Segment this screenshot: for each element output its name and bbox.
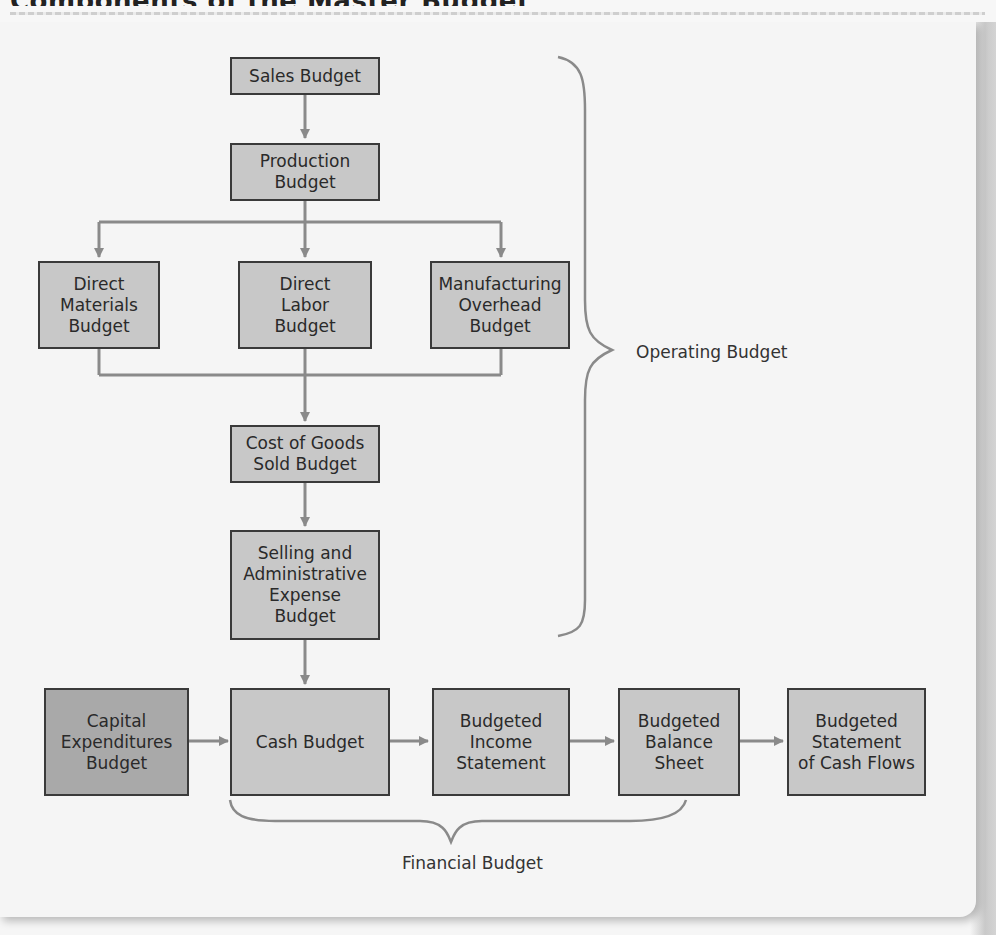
box-selling-admin-expense-budget: Selling and Administrative Expense Budge… <box>230 530 380 640</box>
box-budgeted-income-statement: Budgeted Income Statement <box>432 688 570 796</box>
box-direct-labor-budget: Direct Labor Budget <box>238 261 372 349</box>
box-cost-of-goods-sold-budget: Cost of Goods Sold Budget <box>230 425 380 483</box>
financial-budget-label: Financial Budget <box>402 853 543 873</box>
box-budgeted-statement-of-cash-flows: Budgeted Statement of Cash Flows <box>787 688 926 796</box>
financial-budget-brace <box>230 800 686 842</box>
box-direct-materials-budget: Direct Materials Budget <box>38 261 160 349</box>
box-production-budget: Production Budget <box>230 143 380 201</box>
box-sales-budget: Sales Budget <box>230 57 380 95</box>
box-capital-expenditures-budget: Capital Expenditures Budget <box>44 688 189 796</box>
box-budgeted-balance-sheet: Budgeted Balance Sheet <box>618 688 740 796</box>
box-manufacturing-overhead-budget: Manufacturing Overhead Budget <box>430 261 570 349</box>
operating-budget-label: Operating Budget <box>636 342 788 362</box>
box-cash-budget: Cash Budget <box>230 688 390 796</box>
